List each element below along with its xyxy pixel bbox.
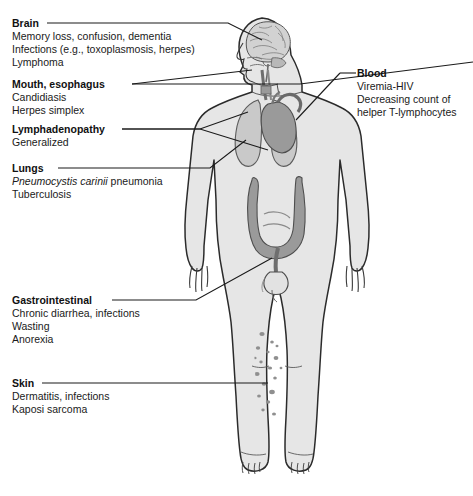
label-skin: Skin Dermatitis, infections Kaposi sarco…: [12, 377, 109, 416]
label-gastrointestinal: Gastrointestinal Chronic diarrhea, infec…: [12, 294, 140, 347]
label-skin-title: Skin: [12, 377, 109, 390]
label-blood-title: Blood: [357, 67, 457, 80]
label-brain: Brain Memory loss, confusion, dementia I…: [12, 17, 195, 70]
label-blood-item-0: Viremia-HIV: [357, 80, 457, 93]
label-mouth-item-0: Candidiasis: [12, 91, 105, 104]
label-blood-item-1: Decreasing count of: [357, 93, 457, 106]
label-lungs-item-0: Pneumocystis carinii pneumonia: [12, 175, 163, 188]
label-gi-title: Gastrointestinal: [12, 294, 140, 307]
body-silhouette: [185, 18, 369, 471]
label-lungs-item-1: Tuberculosis: [12, 188, 163, 201]
label-gi-item-2: Anorexia: [12, 333, 140, 346]
label-lungs-item-0-italic: Pneumocystis carinii: [12, 175, 108, 187]
label-lymph-item-0: Generalized: [12, 136, 105, 149]
label-brain-item-0: Memory loss, confusion, dementia: [12, 30, 195, 43]
label-skin-item-1: Kaposi sarcoma: [12, 403, 109, 416]
label-mouth-title: Mouth, esophagus: [12, 78, 105, 91]
label-lungs-item-0-roman: pneumonia: [108, 175, 163, 187]
label-mouth-item-1: Herpes simplex: [12, 104, 105, 117]
label-lungs-title: Lungs: [12, 162, 163, 175]
label-lymphadenopathy: Lymphadenopathy Generalized: [12, 123, 105, 149]
label-brain-item-1: Infections (e.g., toxoplasmosis, herpes): [12, 43, 195, 56]
label-skin-item-0: Dermatitis, infections: [12, 390, 109, 403]
label-lungs: Lungs Pneumocystis carinii pneumonia Tub…: [12, 162, 163, 201]
label-brain-item-2: Lymphoma: [12, 56, 195, 69]
label-lymph-title: Lymphadenopathy: [12, 123, 105, 136]
label-mouth-esophagus: Mouth, esophagus Candidiasis Herpes simp…: [12, 78, 105, 117]
label-blood-item-2: helper T-lymphocytes: [357, 106, 457, 119]
label-blood: Blood Viremia-HIV Decreasing count of he…: [357, 67, 457, 120]
label-gi-item-1: Wasting: [12, 320, 140, 333]
label-brain-title: Brain: [12, 17, 195, 30]
leader-mouth-b: [132, 70, 252, 84]
label-gi-item-0: Chronic diarrhea, infections: [12, 307, 140, 320]
